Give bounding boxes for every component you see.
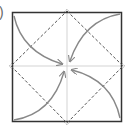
step-mark: ) [0,5,4,19]
diagram-svg [0,0,130,133]
arrow-top-right [70,14,120,61]
arrow-bottom-left [14,72,64,120]
origami-diagram: ) [0,0,130,133]
